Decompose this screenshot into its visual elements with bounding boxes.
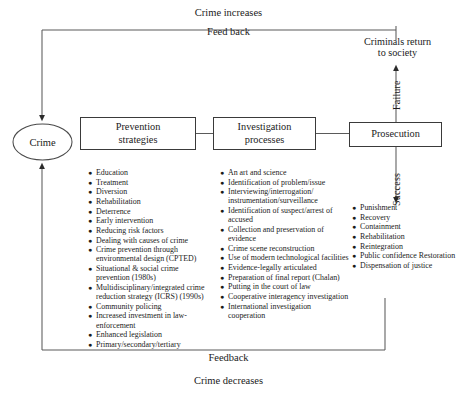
bullet-icon: ●: [352, 261, 356, 272]
list-item-label: Treatment: [96, 178, 214, 187]
list-item-label: Preparation of final report (Chalan): [228, 273, 350, 282]
list-item: ●Punishment: [352, 203, 457, 212]
list-item: ●Primary/secondary/tertiary: [88, 340, 214, 349]
list-item: ●Enhanced legislation: [88, 330, 214, 339]
list-item: ●Treatment: [88, 178, 214, 187]
list-item: ●An art and science: [220, 168, 350, 177]
bullet-icon: ●: [220, 225, 224, 236]
list-item: ●Collection and preservation of evidence: [220, 225, 350, 243]
list-item: ●Rehabilitation: [88, 197, 214, 206]
list-item-label: Reintegration: [360, 242, 457, 251]
list-item-label: Use of modern technological facilities: [228, 253, 350, 262]
list-item-label: Multidisciplinary/integrated crime reduc…: [96, 283, 214, 301]
list-item-label: Recovery: [360, 213, 457, 222]
list-item-label: Identification of suspect/arrest of accu…: [228, 206, 350, 224]
bullet-icon: ●: [88, 283, 92, 294]
list-item-label: Increased investment in law-enforcement: [96, 311, 214, 329]
list-item-label: International investigation cooperation: [228, 302, 350, 320]
bullet-icon: ●: [88, 340, 92, 351]
list-item: ●International investigation cooperation: [220, 302, 350, 320]
edge-label-failure: Failure: [391, 80, 402, 110]
list-item: ●Reintegration: [352, 242, 457, 251]
list-item-label: Dispensation of justice: [360, 261, 457, 270]
list-item-label: Collection and preservation of evidence: [228, 225, 350, 243]
list-item-label: Evidence-legally articulated: [228, 263, 350, 272]
label-feedback: Feedback: [0, 352, 457, 364]
list-item: ●Rehabilitation: [352, 232, 457, 241]
list-investigation-processes: ●An art and science●Identification of pr…: [220, 168, 350, 321]
label-crime-increases: Crime increases: [0, 7, 457, 19]
list-item: ●Crime scene reconstruction: [220, 244, 350, 253]
list-item-label: Diversion: [96, 187, 214, 196]
edge-label-success: Success: [391, 173, 402, 206]
box-investigation-processes: Investigation processes: [213, 117, 316, 150]
list-item: ●Increased investment in law-enforcement: [88, 311, 214, 329]
list-item-label: Putting in the court of law: [228, 282, 350, 291]
bullet-icon: ●: [88, 311, 92, 322]
list-item: ●Containment: [352, 222, 457, 231]
list-item: ●Recovery: [352, 213, 457, 222]
list-item-label: Situational & social crime prevention (1…: [96, 264, 214, 282]
diagram-canvas: Crime increases Feed back Criminals retu…: [0, 0, 457, 400]
list-item-label: Cooperative interagency investigation: [228, 292, 350, 301]
list-item: ●Dispensation of justice: [352, 261, 457, 270]
bullet-icon: ●: [88, 245, 92, 256]
bullet-icon: ●: [220, 187, 224, 198]
bullet-icon: ●: [220, 302, 224, 313]
list-item: ●Early intervention: [88, 216, 214, 225]
list-item-label: Crime prevention through environmental d…: [96, 245, 214, 263]
list-item-label: Interviewing/interrogation/ instrumentat…: [228, 187, 350, 205]
list-item: ●Evidence-legally articulated: [220, 263, 350, 272]
list-item-label: Early intervention: [96, 216, 214, 225]
bullet-icon: ●: [88, 264, 92, 275]
list-item: ●Identification of suspect/arrest of acc…: [220, 206, 350, 224]
list-item: ●Diversion: [88, 187, 214, 196]
list-item-label: Rehabilitation: [360, 232, 457, 241]
list-item: ●Cooperative interagency investigation: [220, 292, 350, 301]
list-item-label: Containment: [360, 222, 457, 231]
list-item-label: Rehabilitation: [96, 197, 214, 206]
list-item: ●Public confidence Restoration: [352, 251, 457, 260]
list-item: ●Use of modern technological facilities: [220, 253, 350, 262]
list-item-label: Public confidence Restoration: [360, 251, 457, 260]
label-crime-decreases: Crime decreases: [0, 375, 457, 387]
list-item: ●Identification of problem/issue: [220, 178, 350, 187]
list-prevention-strategies: ●Education●Treatment●Diversion●Rehabilit…: [88, 168, 214, 349]
list-item-label: Crime scene reconstruction: [228, 244, 350, 253]
list-item-label: Community policing: [96, 302, 214, 311]
list-item: ●Preparation of final report (Chalan): [220, 273, 350, 282]
node-crime: Crime: [13, 124, 72, 160]
list-item: ●Deterrence: [88, 207, 214, 216]
list-item: ●Dealing with causes of crime: [88, 236, 214, 245]
list-item: ●Multidisciplinary/integrated crime redu…: [88, 283, 214, 301]
list-item-label: An art and science: [228, 168, 350, 177]
label-criminals-return-to-society: Criminals return to society: [338, 36, 457, 59]
list-item: ●Education: [88, 168, 214, 177]
list-item: ●Reducing risk factors: [88, 226, 214, 235]
list-item: ●Situational & social crime prevention (…: [88, 264, 214, 282]
list-item-label: Dealing with causes of crime: [96, 236, 214, 245]
list-prosecution-outcomes: ●Punishment●Recovery●Containment●Rehabil…: [352, 203, 457, 271]
list-item: ●Community policing: [88, 302, 214, 311]
list-item-label: Education: [96, 168, 214, 177]
bullet-icon: ●: [220, 206, 224, 217]
list-item-label: Primary/secondary/tertiary: [96, 340, 214, 349]
list-item-label: Identification of problem/issue: [228, 178, 350, 187]
box-prevention-strategies: Prevention strategies: [80, 117, 196, 150]
list-item: ●Interviewing/interrogation/ instrumenta…: [220, 187, 350, 205]
list-item: ●Putting in the court of law: [220, 282, 350, 291]
list-item-label: Reducing risk factors: [96, 226, 214, 235]
list-item: ●Crime prevention through environmental …: [88, 245, 214, 263]
list-item-label: Enhanced legislation: [96, 330, 214, 339]
box-prosecution: Prosecution: [349, 122, 442, 147]
list-item-label: Deterrence: [96, 207, 214, 216]
list-item-label: Punishment: [360, 203, 457, 212]
